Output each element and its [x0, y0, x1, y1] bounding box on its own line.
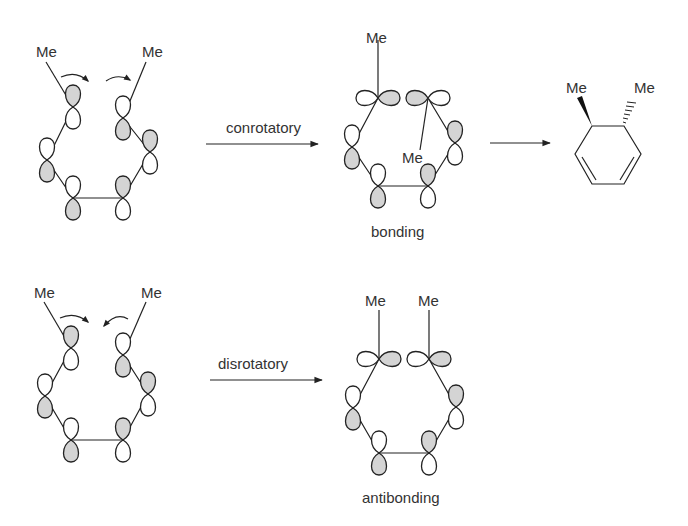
disrotatory-label: disrotatory [218, 355, 289, 372]
rotation-arrow-counterclockwise [104, 317, 128, 326]
intermediate-antibonding: Me Me antibonding [346, 292, 464, 506]
reaction-arrow-disrotatory: disrotatory [210, 355, 322, 380]
rotation-arrow-clockwise [61, 74, 88, 81]
reactant-conrotatory: Me Me [36, 43, 163, 220]
hash-bond [623, 102, 636, 123]
antibonding-caption: antibonding [362, 489, 440, 506]
intermediate-bonding: Me Me bonding [345, 29, 463, 240]
rotation-arrow-clockwise [106, 77, 130, 81]
reactant-disrotatory: Me Me [34, 284, 162, 462]
reaction-arrow-conrotatory: conrotatory [206, 119, 318, 144]
rotation-arrow-clockwise [60, 315, 88, 322]
me-label: Me [36, 43, 57, 60]
me-label: Me [418, 292, 439, 309]
electrocyclic-diagram: Me Me conrotatory Me Me bonding [0, 0, 688, 526]
conrotatory-label: conrotatory [226, 119, 302, 136]
me-label: Me [634, 79, 655, 96]
me-label: Me [366, 29, 387, 46]
me-label: Me [142, 43, 163, 60]
me-label: Me [141, 284, 162, 301]
product-trans-dimethylcyclohexadiene: Me Me [566, 79, 655, 184]
me-label: Me [402, 149, 423, 166]
wedge-bond [577, 96, 592, 126]
me-label: Me [34, 284, 55, 301]
bonding-caption: bonding [371, 223, 424, 240]
me-label: Me [566, 79, 587, 96]
me-label: Me [365, 292, 386, 309]
